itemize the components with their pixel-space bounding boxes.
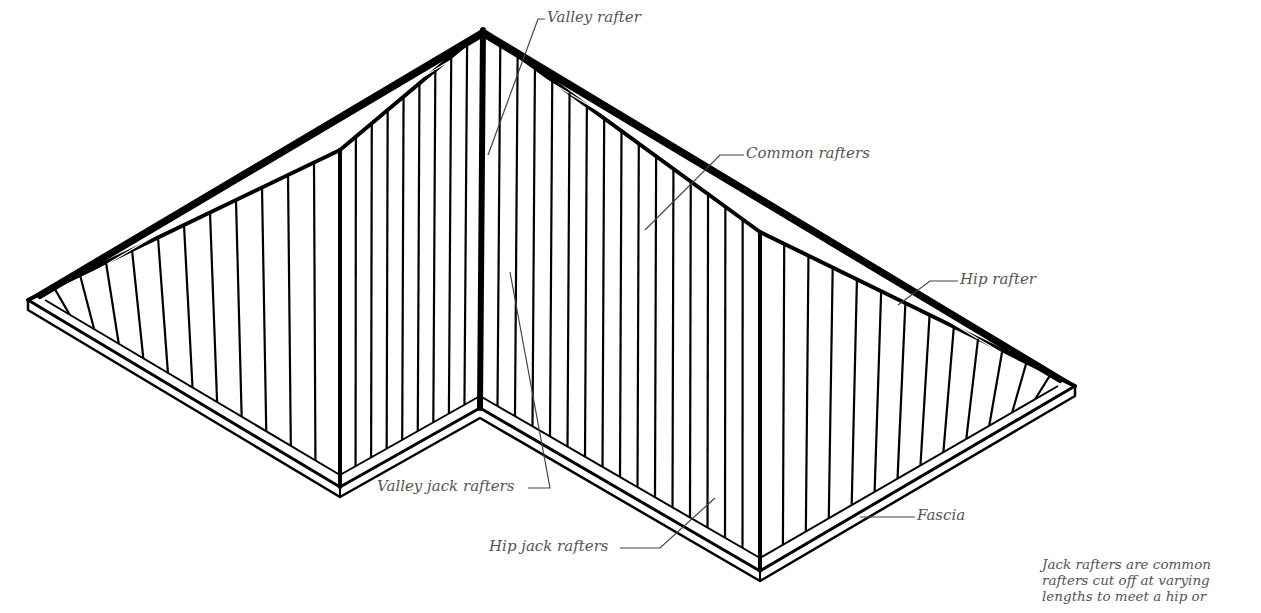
label-valley-rafter: Valley rafter xyxy=(547,10,641,25)
label-fascia: Fascia xyxy=(917,508,965,523)
leader-lines xyxy=(0,0,1261,613)
jack-rafter-note: Jack rafters are common rafters cut off … xyxy=(1042,556,1261,604)
leader-common-rafters xyxy=(645,155,744,230)
label-valley-jack-rafters: Valley jack rafters xyxy=(377,479,514,494)
label-hip-jack-rafters: Hip jack rafters xyxy=(489,539,609,554)
label-common-rafters: Common rafters xyxy=(746,146,870,161)
leader-valley-rafter xyxy=(488,19,545,155)
leader-hip-jack-rafters xyxy=(620,498,715,548)
leader-hip-rafter xyxy=(898,281,958,305)
leader-valley-jack-rafters xyxy=(510,272,550,488)
note-line: rafters cut off at varying xyxy=(1042,572,1261,588)
note-line: Jack rafters are common xyxy=(1042,556,1261,572)
note-line: lengths to meet a hip or xyxy=(1042,588,1261,604)
roof-framing-diagram: Valley rafter Common rafters Hip rafter … xyxy=(0,0,1261,613)
label-hip-rafter: Hip rafter xyxy=(960,272,1036,287)
